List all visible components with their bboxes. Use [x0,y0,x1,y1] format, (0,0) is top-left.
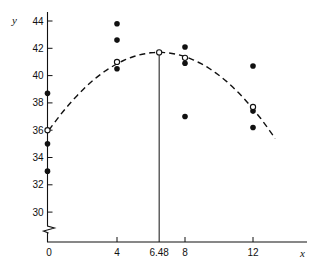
data-point [114,37,120,43]
chart: 046.48812 3032343638404244 x y [0,0,321,269]
curve-layer [49,52,275,242]
data-point [250,63,256,69]
y-tick-label: 34 [32,152,44,163]
axes [44,12,308,242]
data-point [45,141,51,147]
x-tick-label: 8 [182,247,188,258]
data-point [114,21,120,27]
data-point [250,125,256,131]
fitted-mean-point [114,59,119,64]
x-tick-label: 6.48 [149,247,169,258]
data-point [182,114,188,120]
fitted-mean-point [157,50,162,55]
data-point [45,168,51,174]
y-tick-label: 36 [32,125,44,136]
data-point [182,61,188,67]
y-tick-label: 30 [32,207,44,218]
y-axis-title: y [11,14,17,26]
data-point [114,66,120,72]
fitted-curve [49,52,275,138]
y-ticks: 3032343638404244 [32,16,52,218]
marks [45,21,256,174]
y-tick-label: 44 [32,16,44,27]
x-tick-label: 4 [114,247,120,258]
y-tick-label: 38 [32,97,44,108]
x-tick-label: 0 [46,247,52,258]
y-tick-label: 32 [32,179,44,190]
data-point [182,44,188,50]
y-tick-label: 42 [32,43,44,54]
fitted-mean-point [45,128,50,133]
data-point [45,91,51,97]
x-ticks: 046.48812 [46,237,259,258]
axis-lines-with-break [44,12,308,242]
fitted-mean-point [250,104,255,109]
x-tick-label: 12 [247,247,259,258]
y-tick-label: 40 [32,70,44,81]
x-axis-title: x [299,247,305,259]
fitted-mean-point [182,55,187,60]
